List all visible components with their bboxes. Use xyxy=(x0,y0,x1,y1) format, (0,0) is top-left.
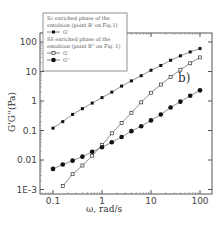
y-tick-label: 10 xyxy=(26,67,38,77)
legend-entry-label: G' xyxy=(63,50,68,56)
y-tick-label: 1E-3 xyxy=(17,185,37,195)
y-tick-label: 0.01 xyxy=(17,155,37,165)
x-tick-label: 0.1 xyxy=(46,196,60,206)
y-tick-label: 0.1 xyxy=(23,126,37,136)
legend-group-text: emulsion (point B'' on Fig. 1) xyxy=(47,43,121,50)
series-ss-g- xyxy=(51,88,203,171)
x-tick-label: 10 xyxy=(145,196,157,206)
y-tick-label: 1 xyxy=(31,96,37,106)
legend-entry-label: G' xyxy=(63,29,68,35)
legend: Sc enriched phase of theemulsion (point … xyxy=(43,13,127,71)
panel-label: b) xyxy=(178,71,190,85)
legend-group-text: emulsion (point B' on Fig.1) xyxy=(47,22,118,29)
y-tick-label: 100 xyxy=(20,37,37,47)
x-tick-label: 100 xyxy=(191,196,208,206)
legend-group-text: Sc enriched phase of the xyxy=(47,15,110,22)
x-axis-label: ω, rad/s xyxy=(86,204,123,214)
legend-group-text: SS enriched phase of the xyxy=(47,36,110,43)
chart: 1E-30.010.1110100 0.1110100 b) ω, rad/s … xyxy=(0,0,222,231)
legend-entry-label: G'' xyxy=(63,57,70,63)
y-axis-label: G'G''(Pa) xyxy=(7,92,17,132)
